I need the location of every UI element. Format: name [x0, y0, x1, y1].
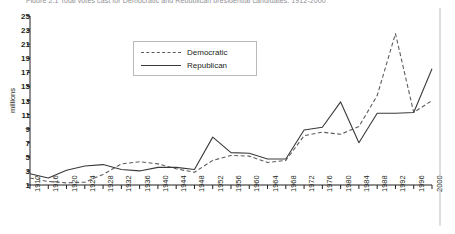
legend-swatch-solid-icon: [141, 65, 181, 67]
series-line-republican: [30, 69, 432, 178]
legend-item-democratic: Democratic: [141, 47, 227, 58]
chart-container: Figure 2.1 Total votes cast for Democrat…: [0, 0, 455, 234]
legend-swatch-dashed-icon: [141, 52, 181, 54]
legend-label-democratic: Democratic: [187, 48, 227, 57]
legend-label-republican: Republican: [187, 61, 227, 70]
legend: Democratic Republican: [133, 41, 257, 76]
plot-area: [0, 0, 455, 234]
legend-item-republican: Republican: [141, 60, 227, 71]
